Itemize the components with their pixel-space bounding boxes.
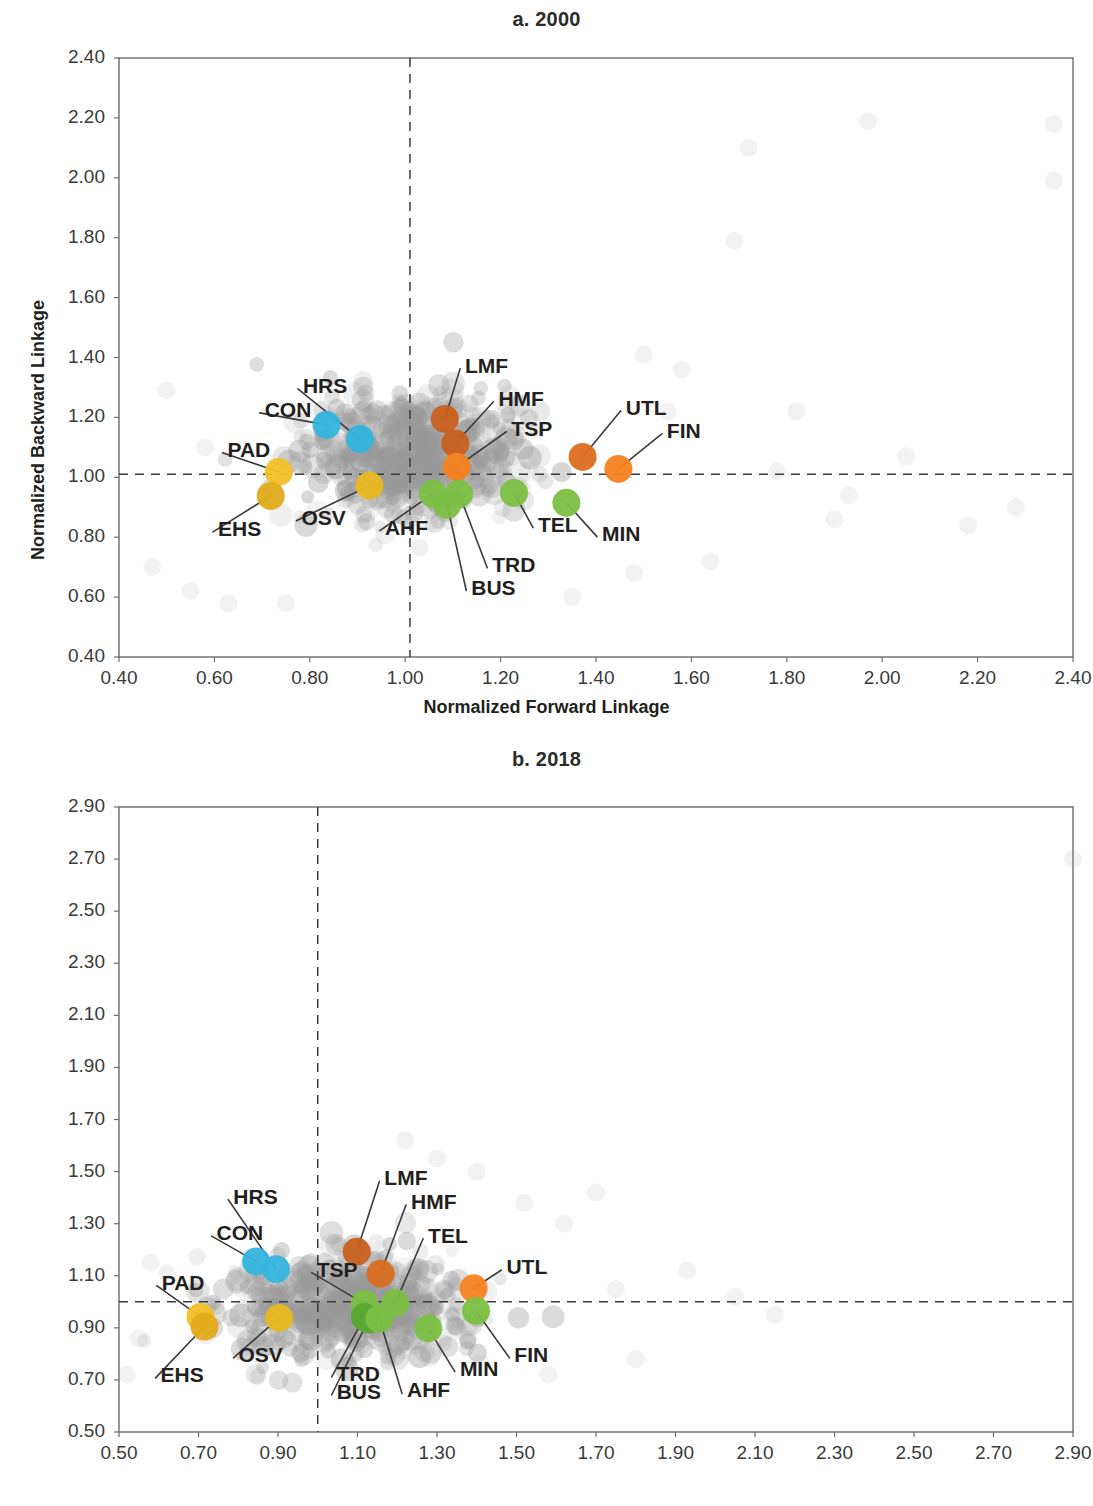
point-label-fin: FIN [667, 419, 701, 443]
x-tick-label: 1.30 [397, 1442, 477, 1464]
point-label-ehs: EHS [218, 517, 261, 541]
y-tick-label: 1.50 [23, 1160, 105, 1182]
point-label-trd: TRD [492, 553, 535, 577]
point-label-lmf: LMF [384, 1166, 427, 1190]
y-tick-label: 1.70 [23, 1108, 105, 1130]
y-tick-label: 0.40 [23, 645, 105, 667]
panel-a-y-axis-title: Normalized Backward Linkage [28, 300, 49, 560]
y-tick-label: 1.00 [23, 465, 105, 487]
point-label-tel: TEL [538, 513, 578, 537]
y-tick-label: 1.30 [23, 1212, 105, 1234]
x-tick-label: 2.50 [874, 1442, 954, 1464]
point-label-osv: OSV [238, 1343, 282, 1367]
point-label-lmf: LMF [465, 354, 508, 378]
x-tick-label: 0.70 [159, 1442, 239, 1464]
x-tick-label: 1.70 [556, 1442, 636, 1464]
point-label-bus: BUS [471, 576, 515, 600]
y-tick-label: 0.70 [23, 1368, 105, 1390]
x-tick-label: 2.70 [954, 1442, 1034, 1464]
y-tick-label: 1.60 [23, 286, 105, 308]
point-label-pad: PAD [162, 1271, 205, 1295]
x-tick-label: 1.00 [365, 667, 445, 689]
point-label-ehs: EHS [161, 1363, 204, 1387]
point-label-bus: BUS [337, 1380, 381, 1404]
x-tick-label: 2.10 [715, 1442, 795, 1464]
panel-a-2000: a. 2000 Normalized Backward Linkage Norm… [0, 0, 1093, 740]
x-tick-label: 1.90 [636, 1442, 716, 1464]
y-tick-label: 0.90 [23, 1316, 105, 1338]
y-tick-label: 1.10 [23, 1264, 105, 1286]
y-tick-label: 2.10 [23, 1003, 105, 1025]
x-tick-label: 0.90 [238, 1442, 318, 1464]
panel-a-x-axis-title: Normalized Forward Linkage [0, 697, 1093, 718]
point-label-ahf: AHF [407, 1378, 450, 1402]
y-tick-label: 0.50 [23, 1420, 105, 1442]
y-tick-label: 2.50 [23, 899, 105, 921]
point-label-ahf: AHF [385, 516, 428, 540]
y-tick-label: 2.90 [23, 795, 105, 817]
x-tick-label: 0.40 [79, 667, 159, 689]
y-tick-label: 2.40 [23, 46, 105, 68]
x-tick-label: 2.20 [938, 667, 1018, 689]
point-label-min: MIN [460, 1357, 499, 1381]
point-label-con: CON [265, 398, 312, 422]
x-tick-label: 0.60 [174, 667, 254, 689]
y-tick-label: 1.40 [23, 346, 105, 368]
x-tick-label: 0.80 [270, 667, 350, 689]
x-tick-label: 2.00 [842, 667, 922, 689]
y-tick-label: 0.80 [23, 525, 105, 547]
panel-a-plot [0, 0, 1093, 740]
x-tick-label: 1.60 [651, 667, 731, 689]
point-label-hrs: HRS [303, 374, 347, 398]
panel-b-plot [0, 740, 1093, 1506]
point-label-utl: UTL [506, 1255, 547, 1279]
x-tick-label: 2.40 [1033, 667, 1093, 689]
y-tick-label: 2.30 [23, 951, 105, 973]
point-label-utl: UTL [626, 396, 667, 420]
point-label-con: CON [217, 1221, 264, 1245]
point-label-hmf: HMF [411, 1190, 457, 1214]
point-label-tel: TEL [428, 1224, 468, 1248]
x-tick-label: 1.10 [318, 1442, 398, 1464]
point-label-hmf: HMF [498, 387, 544, 411]
point-label-min: MIN [602, 522, 641, 546]
y-tick-label: 1.20 [23, 405, 105, 427]
y-tick-label: 2.00 [23, 166, 105, 188]
x-tick-label: 1.20 [461, 667, 541, 689]
x-tick-label: 2.90 [1033, 1442, 1093, 1464]
y-tick-label: 1.90 [23, 1055, 105, 1077]
point-label-hrs: HRS [233, 1185, 277, 1209]
y-tick-label: 2.20 [23, 106, 105, 128]
point-label-tsp: TSP [511, 417, 552, 441]
x-tick-label: 1.80 [747, 667, 827, 689]
x-tick-label: 1.50 [477, 1442, 557, 1464]
panel-b-2018: b. 2018 Normalized Backward Linkage Norm… [0, 740, 1093, 1506]
y-tick-label: 1.80 [23, 226, 105, 248]
x-tick-label: 0.50 [79, 1442, 159, 1464]
linkage-scatter-figure: a. 2000 Normalized Backward Linkage Norm… [0, 0, 1093, 1506]
point-label-tsp: TSP [317, 1258, 358, 1282]
y-tick-label: 0.60 [23, 585, 105, 607]
x-tick-label: 2.30 [795, 1442, 875, 1464]
point-label-osv: OSV [301, 506, 345, 530]
point-label-pad: PAD [228, 438, 271, 462]
y-tick-label: 2.70 [23, 847, 105, 869]
x-tick-label: 1.40 [556, 667, 636, 689]
point-label-fin: FIN [514, 1343, 548, 1367]
